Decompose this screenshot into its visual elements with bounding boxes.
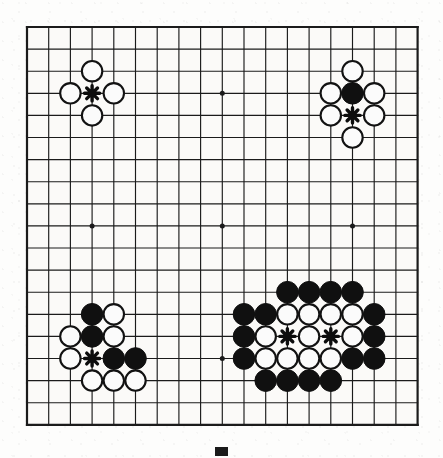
star-point-hoshi [220,356,225,361]
black-stone[interactable] [81,326,103,348]
asterisk-mark-icon[interactable] [323,329,338,344]
asterisk-mark-icon[interactable] [85,86,100,101]
white-stone[interactable] [60,83,80,103]
white-stone[interactable] [82,105,102,125]
asterisk-mark-icon[interactable] [345,108,360,123]
star-point-hoshi [350,223,355,228]
star-point-hoshi [220,91,225,96]
black-stone[interactable] [363,348,385,370]
black-stone[interactable] [255,304,277,326]
black-stone[interactable] [320,370,342,392]
asterisk-mark-icon[interactable] [85,351,100,366]
black-stone[interactable] [363,326,385,348]
white-stone[interactable] [364,83,384,103]
black-stone[interactable] [81,304,103,326]
star-point-hoshi [220,223,225,228]
black-stone[interactable] [277,370,299,392]
black-stone[interactable] [363,304,385,326]
white-stone[interactable] [277,304,297,324]
white-stone[interactable] [321,83,341,103]
black-stone[interactable] [298,370,320,392]
white-stone[interactable] [321,348,341,368]
solid-black-rectangle-icon [215,447,228,456]
star-point-hoshi [90,223,95,228]
black-stone[interactable] [103,348,125,370]
black-stone[interactable] [342,83,364,105]
white-stone[interactable] [299,326,319,346]
black-stone[interactable] [233,348,255,370]
white-stone[interactable] [342,326,362,346]
black-stone[interactable] [342,348,364,370]
black-stone[interactable] [277,281,299,303]
white-stone[interactable] [82,370,102,390]
white-stone[interactable] [277,348,297,368]
black-stone[interactable] [342,281,364,303]
white-stone[interactable] [104,83,124,103]
white-stone[interactable] [364,105,384,125]
asterisk-mark-icon[interactable] [280,329,295,344]
go-board [0,0,443,440]
white-stone[interactable] [82,61,102,81]
white-stone[interactable] [104,370,124,390]
white-stone[interactable] [342,61,362,81]
black-stone[interactable] [233,326,255,348]
white-stone[interactable] [60,348,80,368]
diagram-page [0,0,443,458]
white-stone[interactable] [299,348,319,368]
white-stone[interactable] [125,370,145,390]
white-stone[interactable] [256,326,276,346]
white-stone[interactable] [104,304,124,324]
footer-black-mark [0,442,443,456]
black-stone[interactable] [233,304,255,326]
white-stone[interactable] [321,304,341,324]
black-stone[interactable] [298,281,320,303]
white-stone[interactable] [342,127,362,147]
black-stone[interactable] [255,370,277,392]
white-stone[interactable] [342,304,362,324]
black-stone[interactable] [320,281,342,303]
go-board-container [0,0,443,440]
black-stone[interactable] [125,348,147,370]
white-stone[interactable] [60,326,80,346]
white-stone[interactable] [321,105,341,125]
white-stone[interactable] [256,348,276,368]
white-stone[interactable] [299,304,319,324]
white-stone[interactable] [104,326,124,346]
